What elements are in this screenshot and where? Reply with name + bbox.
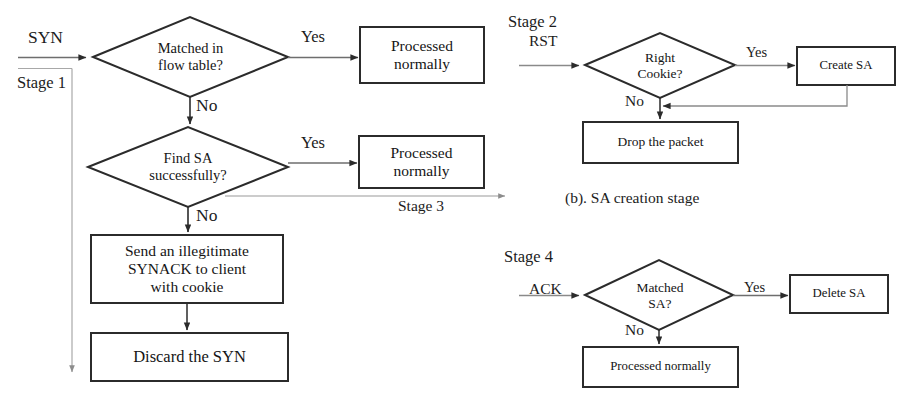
decision-right-cookie-label: Right Cookie?: [605, 45, 715, 87]
decision2-yes-label: Yes: [301, 134, 325, 151]
box-send-synack-label: Send an illegitimate SYNACK to client wi…: [93, 237, 281, 301]
stage2-label: Stage 2: [508, 13, 557, 30]
ack-input-label: ACK: [529, 281, 562, 297]
stage3-label: Stage 3: [398, 198, 444, 214]
panel-b-caption: (b). SA creation stage: [565, 190, 699, 206]
box-processed-normally-3-label: Processed normally: [585, 348, 736, 385]
box-processed-normally-2-label: Processed normally: [361, 137, 482, 187]
decision1-no-label: No: [196, 96, 217, 114]
decision2-no-label: No: [196, 206, 217, 224]
cookie-no-label: No: [625, 93, 644, 109]
box-create-sa-label: Create SA: [799, 48, 893, 83]
stage1-label: Stage 1: [17, 74, 66, 91]
rst-input-label: RST: [529, 33, 557, 49]
box-processed-normally-1-label: Processed normally: [362, 29, 482, 81]
decision-matched-sa-label: Matched SA?: [605, 276, 715, 316]
create-sa-feedback-arrow: [663, 85, 847, 106]
decision1-yes-label: Yes: [301, 28, 325, 45]
stage1-bracket: [18, 69, 72, 373]
syn-input-label: SYN: [28, 28, 63, 46]
flowchart-figure: SYN Stage 1 Matched in flow table? Yes P…: [0, 0, 920, 412]
stage4-label: Stage 4: [504, 248, 553, 265]
cookie-yes-label: Yes: [746, 45, 767, 60]
matched-sa-yes-label: Yes: [744, 280, 765, 295]
decision-matched-flow-table-label: Matched in flow table?: [118, 31, 263, 83]
decision-find-sa-label: Find SA successfully?: [118, 141, 258, 193]
matched-sa-no-label: No: [625, 322, 644, 338]
box-discard-syn-label: Discard the SYN: [93, 334, 286, 380]
box-drop-packet-label: Drop the packet: [585, 123, 736, 161]
box-delete-sa-label: Delete SA: [792, 276, 886, 311]
